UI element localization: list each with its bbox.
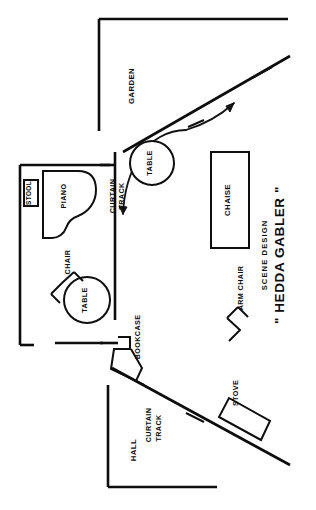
area-label-hall: HALL bbox=[129, 439, 138, 461]
title-line-1: SCENE DESIGN bbox=[260, 220, 269, 291]
chaise-label: CHAISE bbox=[223, 184, 232, 216]
curtain-track-lower-label-line2: TRACK bbox=[154, 414, 163, 442]
curtain-track-upper-label-line2: TRACK bbox=[117, 182, 126, 210]
curtain-track-lower-label-line1: CURTAIN bbox=[144, 408, 153, 443]
floor-plan-drawing: GARDEN CURTAIN TRACK bbox=[0, 0, 316, 510]
piano-label: PIANO bbox=[59, 184, 68, 209]
stove-label: STOVE bbox=[231, 380, 240, 406]
stool-label: STOOL bbox=[25, 181, 32, 205]
scene-design-plan: GARDEN CURTAIN TRACK bbox=[0, 0, 316, 510]
bookcase-label: BOOKCASE bbox=[133, 315, 142, 360]
area-label-garden: GARDEN bbox=[127, 68, 136, 104]
table-lower-label: TABLE bbox=[80, 287, 89, 312]
title-line-2: " HEDDA GABLER " bbox=[272, 186, 287, 324]
arm-chair-label: ARM CHAIR bbox=[236, 265, 245, 310]
table-upper-label: TABLE bbox=[145, 150, 154, 175]
chair-label: CHAIR bbox=[63, 249, 72, 274]
